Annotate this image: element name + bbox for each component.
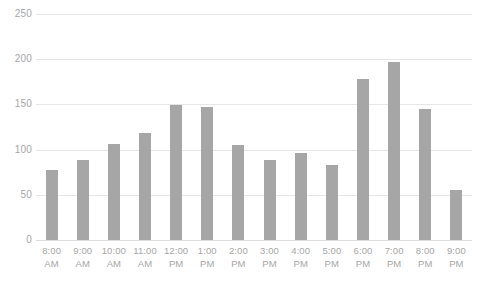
x-axis-tick-meridiem: PM bbox=[347, 257, 378, 270]
x-axis-tick-meridiem: PM bbox=[223, 257, 254, 270]
x-axis-tick-meridiem: PM bbox=[379, 257, 410, 270]
bar[interactable] bbox=[232, 145, 244, 240]
bar-slot bbox=[98, 14, 129, 240]
y-axis-tick-label: 50 bbox=[2, 190, 32, 200]
bar-slot bbox=[379, 14, 410, 240]
x-axis-tick-meridiem: PM bbox=[316, 257, 347, 270]
x-axis-tick-time: 9:00 bbox=[67, 244, 98, 257]
bar-slot bbox=[285, 14, 316, 240]
bar-slot bbox=[316, 14, 347, 240]
x-axis-tick-label: 4:00PM bbox=[285, 244, 316, 284]
y-axis-tick-label: 200 bbox=[2, 54, 32, 64]
x-axis-tick-meridiem: PM bbox=[192, 257, 223, 270]
x-axis-tick-label: 5:00PM bbox=[316, 244, 347, 284]
y-axis-tick-label: 150 bbox=[2, 99, 32, 109]
x-axis-tick-time: 7:00 bbox=[379, 244, 410, 257]
bar-slot bbox=[161, 14, 192, 240]
x-axis-tick-time: 9:00 bbox=[441, 244, 472, 257]
bar-slot bbox=[192, 14, 223, 240]
x-axis-tick-label: 8:00AM bbox=[36, 244, 67, 284]
x-axis: 8:00AM9:00AM10:00AM11:00AM12:00PM1:00PM2… bbox=[36, 244, 472, 284]
y-axis-tick-label: 250 bbox=[2, 9, 32, 19]
x-axis-tick-label: 9:00PM bbox=[441, 244, 472, 284]
bar-chart: 050100150200250 8:00AM9:00AM10:00AM11:00… bbox=[0, 0, 482, 289]
x-axis-tick-label: 12:00PM bbox=[161, 244, 192, 284]
x-axis-tick-label: 8:00PM bbox=[410, 244, 441, 284]
x-axis-tick-label: 6:00PM bbox=[347, 244, 378, 284]
x-axis-tick-label: 9:00AM bbox=[67, 244, 98, 284]
x-axis-tick-label: 7:00PM bbox=[379, 244, 410, 284]
x-axis-tick-time: 6:00 bbox=[347, 244, 378, 257]
bar-slot bbox=[36, 14, 67, 240]
x-axis-tick-meridiem: PM bbox=[410, 257, 441, 270]
x-axis-tick-time: 4:00 bbox=[285, 244, 316, 257]
bar-slot bbox=[410, 14, 441, 240]
bar-slot bbox=[223, 14, 254, 240]
bar-slot bbox=[254, 14, 285, 240]
x-axis-tick-label: 3:00PM bbox=[254, 244, 285, 284]
x-axis-tick-meridiem: PM bbox=[161, 257, 192, 270]
bar[interactable] bbox=[357, 79, 369, 240]
x-axis-tick-time: 12:00 bbox=[161, 244, 192, 257]
x-axis-tick-meridiem: AM bbox=[36, 257, 67, 270]
x-axis-tick-label: 10:00AM bbox=[98, 244, 129, 284]
x-axis-tick-meridiem: AM bbox=[98, 257, 129, 270]
y-axis-tick-label: 100 bbox=[2, 145, 32, 155]
x-axis-tick-meridiem: AM bbox=[129, 257, 160, 270]
x-axis-tick-label: 11:00AM bbox=[129, 244, 160, 284]
x-axis-tick-time: 5:00 bbox=[316, 244, 347, 257]
x-axis-tick-time: 2:00 bbox=[223, 244, 254, 257]
x-axis-tick-meridiem: PM bbox=[441, 257, 472, 270]
bar[interactable] bbox=[295, 153, 307, 240]
x-axis-tick-time: 8:00 bbox=[410, 244, 441, 257]
x-axis-tick-meridiem: PM bbox=[254, 257, 285, 270]
gridline bbox=[36, 240, 472, 241]
x-axis-tick-time: 8:00 bbox=[36, 244, 67, 257]
x-axis-tick-meridiem: PM bbox=[285, 257, 316, 270]
bar[interactable] bbox=[264, 160, 276, 240]
bar-slot bbox=[347, 14, 378, 240]
bar[interactable] bbox=[170, 105, 182, 240]
y-axis: 050100150200250 bbox=[0, 0, 32, 289]
bar-slot bbox=[441, 14, 472, 240]
x-axis-tick-time: 1:00 bbox=[192, 244, 223, 257]
bar[interactable] bbox=[139, 133, 151, 240]
bar[interactable] bbox=[201, 107, 213, 240]
x-axis-tick-label: 2:00PM bbox=[223, 244, 254, 284]
bar-slot bbox=[129, 14, 160, 240]
bar-slot bbox=[67, 14, 98, 240]
bar[interactable] bbox=[419, 109, 431, 240]
x-axis-tick-time: 11:00 bbox=[129, 244, 160, 257]
bar[interactable] bbox=[450, 190, 462, 240]
x-axis-tick-time: 3:00 bbox=[254, 244, 285, 257]
bars-container bbox=[36, 14, 472, 240]
x-axis-tick-label: 1:00PM bbox=[192, 244, 223, 284]
x-axis-tick-time: 10:00 bbox=[98, 244, 129, 257]
y-axis-tick-label: 0 bbox=[2, 235, 32, 245]
x-axis-tick-meridiem: AM bbox=[67, 257, 98, 270]
bar[interactable] bbox=[46, 170, 58, 240]
bar[interactable] bbox=[326, 165, 338, 240]
bar[interactable] bbox=[388, 62, 400, 240]
bar[interactable] bbox=[77, 160, 89, 240]
bar[interactable] bbox=[108, 144, 120, 240]
